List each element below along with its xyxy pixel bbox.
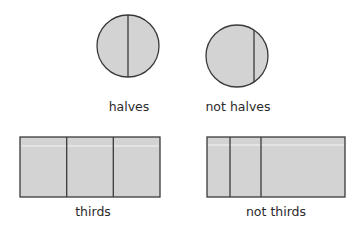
- not-halves-label: not halves: [205, 99, 270, 114]
- fractions-diagram: [0, 0, 363, 229]
- halves-label: halves: [109, 99, 150, 114]
- thirds-rectangle: [20, 137, 160, 197]
- halves-circle: [97, 15, 159, 77]
- not-thirds-label: not thirds: [246, 204, 306, 219]
- thirds-label: thirds: [75, 204, 111, 219]
- not-thirds-rectangle: [207, 137, 345, 197]
- not-halves-circle: [206, 25, 268, 87]
